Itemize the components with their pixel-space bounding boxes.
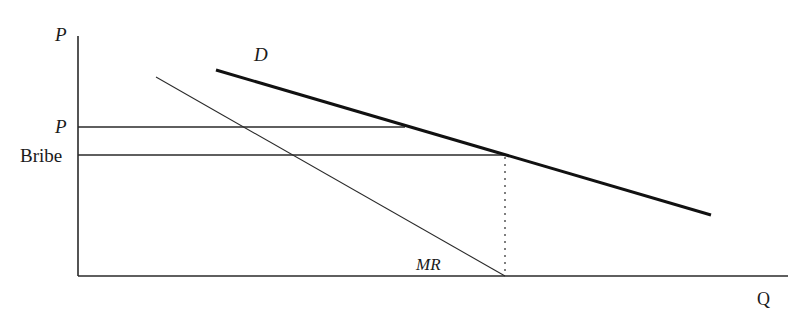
monopoly-bribe-diagram: P Q P Bribe D MR bbox=[0, 0, 802, 322]
bribe-label: Bribe bbox=[20, 145, 62, 166]
x-axis-label: Q bbox=[757, 289, 770, 309]
y-axis-label: P bbox=[54, 24, 67, 45]
mr-label: MR bbox=[415, 255, 441, 274]
demand-label: D bbox=[253, 44, 268, 65]
demand-curve bbox=[216, 70, 711, 215]
mr-curve bbox=[156, 77, 505, 276]
price-p-label: P bbox=[54, 116, 67, 137]
